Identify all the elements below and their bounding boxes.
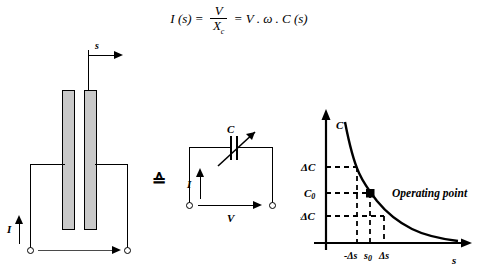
chart-x-tick-label-delta-s-neg: -Δs bbox=[344, 250, 358, 261]
formula-numerator: V bbox=[210, 4, 228, 19]
voltage-arrow-line bbox=[198, 205, 256, 206]
terminal-left[interactable] bbox=[27, 247, 34, 254]
chart-guides bbox=[326, 167, 384, 243]
capacitance-vs-displacement-chart: C s Operating point ΔC C0 -ΔC -Δs s0 Δs bbox=[300, 100, 478, 276]
circuit-terminal-right[interactable] bbox=[269, 202, 276, 209]
terminal-right[interactable] bbox=[124, 247, 131, 254]
capacitor-label: C bbox=[227, 124, 234, 135]
circuit-current-label: I bbox=[187, 179, 191, 190]
wire-top-left bbox=[30, 164, 65, 165]
terminal-link-line bbox=[38, 250, 116, 251]
chart-y-tick-label-c0: C0 bbox=[304, 187, 315, 201]
chart-x-tick-label-delta-s-pos: Δs bbox=[378, 250, 389, 261]
equivalent-circuit-diagram: C V I bbox=[175, 125, 295, 235]
current-formula: I (s) = V Xc = V . ω . C (s) bbox=[0, 4, 478, 35]
formula-equals: = bbox=[234, 11, 243, 26]
chart-x-axis-title: s bbox=[451, 254, 456, 266]
terminal-link-arrow-head bbox=[112, 246, 121, 254]
current-label: I bbox=[7, 224, 11, 235]
voltage-label: V bbox=[227, 213, 234, 224]
displacement-arrow-line bbox=[88, 55, 116, 56]
chart-y-axis bbox=[322, 109, 331, 250]
chart-y-tick-label-delta-c-pos: ΔC bbox=[300, 161, 316, 173]
formula-lhs: I (s) = bbox=[170, 11, 203, 26]
chart-curve bbox=[345, 122, 458, 241]
physical-capacitor-diagram: s I bbox=[0, 38, 155, 268]
capacitor-plate-fixed bbox=[62, 90, 75, 230]
wire-left-vertical bbox=[30, 164, 31, 249]
formula-fraction: V Xc bbox=[210, 4, 228, 35]
circuit-current-arrow-line bbox=[200, 175, 201, 199]
capacitor-plate-movable bbox=[84, 90, 97, 230]
chart-svg: C s Operating point ΔC C0 -ΔC -Δs s0 Δs bbox=[300, 100, 478, 276]
formula-denominator: Xc bbox=[210, 19, 228, 36]
variable-capacitor-arrow bbox=[215, 125, 265, 170]
current-arrow-line bbox=[19, 222, 20, 244]
circuit-wire-left-vertical bbox=[189, 147, 190, 205]
formula-rhs: V . ω . C (s) bbox=[246, 11, 308, 26]
wire-top-right bbox=[95, 164, 128, 165]
equivalence-symbol: ≙ bbox=[152, 172, 166, 189]
current-arrow-head bbox=[15, 215, 23, 224]
circuit-terminal-left[interactable] bbox=[186, 202, 193, 209]
circuit-wire-right-vertical bbox=[272, 147, 273, 205]
voltage-arrow-head bbox=[253, 201, 262, 209]
displacement-label: s bbox=[95, 40, 99, 51]
chart-y-tick-label-delta-c-neg: -ΔC bbox=[300, 210, 316, 222]
chart-y-axis-title: C bbox=[336, 119, 344, 131]
wire-right-vertical bbox=[127, 164, 128, 249]
displacement-arrow-head bbox=[114, 51, 123, 59]
chart-operating-point-label: Operating point bbox=[392, 187, 468, 200]
chart-x-tick-label-s0: s0 bbox=[363, 250, 372, 263]
chart-operating-point-marker bbox=[366, 189, 375, 198]
formula-denominator-subscript: c bbox=[221, 26, 225, 35]
circuit-current-arrow-head bbox=[196, 168, 204, 177]
